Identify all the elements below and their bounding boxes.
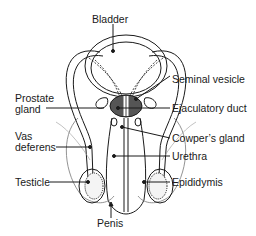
cowpers-gland-left	[111, 118, 117, 126]
seminal-vesicle-right	[144, 98, 156, 109]
label-bladder: Bladder	[92, 14, 128, 25]
anatomy-drawing	[0, 0, 256, 236]
label-epididymis: Epididymis	[172, 177, 223, 188]
label-cowpers-gland: Cowper’s gland	[172, 133, 245, 144]
seminal-vesicle-left	[96, 98, 108, 109]
label-penis: Penis	[97, 218, 123, 229]
label-seminal-vesicle: Seminal vesicle	[172, 74, 245, 85]
label-vas-line2: deferens	[15, 142, 56, 153]
label-prostate-line2: gland	[15, 104, 41, 115]
bladder-shape	[85, 35, 167, 97]
cowpers-gland-right	[135, 118, 141, 126]
reproductive-diagram: Bladder Seminal vesicle Prostate gland E…	[0, 0, 256, 236]
vas-deferens-left	[66, 51, 100, 178]
label-testicle: Testicle	[15, 177, 50, 188]
label-ejaculatory-duct: Ejaculatory duct	[172, 103, 247, 114]
label-urethra: Urethra	[172, 151, 207, 162]
